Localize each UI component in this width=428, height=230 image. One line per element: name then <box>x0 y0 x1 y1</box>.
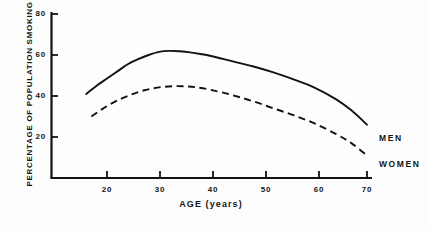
x-tick-label-20: 20 <box>97 185 117 194</box>
series-line-women <box>91 86 367 155</box>
x-tick-label-70: 70 <box>357 185 377 194</box>
series-label-men: MEN <box>379 133 403 143</box>
x-tick-label-30: 30 <box>150 185 170 194</box>
x-tick-label-50: 50 <box>256 185 276 194</box>
x-tick-label-60: 60 <box>309 185 329 194</box>
y-axis-title: PERCENTAGE OF POPULATION SMOKING <box>25 7 34 187</box>
x-tick-label-40: 40 <box>203 185 223 194</box>
x-axis-title: AGE (years) <box>51 199 371 209</box>
series-label-women: WOMEN <box>379 159 421 169</box>
series-line-men <box>86 51 367 125</box>
chart-plot-area <box>0 0 428 230</box>
figure-container: 80 60 40 20 20 30 40 50 60 70 PERCENTAGE… <box>0 0 428 230</box>
